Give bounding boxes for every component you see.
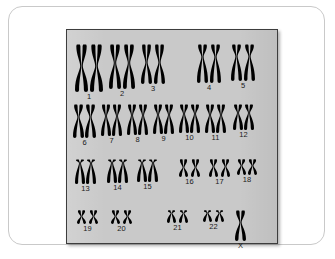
chromosome-21-1: [167, 210, 176, 223]
chromosome-group-9[interactable]: 9: [153, 104, 174, 144]
chromosome-2-1: [109, 44, 121, 89]
chromosome-13-1: [75, 159, 85, 184]
chromosome-label-15: 15: [137, 182, 158, 192]
chromosome-10-2: [190, 104, 200, 133]
chromosome-group-10[interactable]: 10: [179, 104, 200, 143]
chromosome-label-19: 19: [77, 224, 98, 234]
chromosome-group-12[interactable]: 12: [233, 104, 254, 140]
chromosome-17-1: [209, 159, 218, 177]
chromosome-7-2: [112, 104, 122, 136]
chromosome-label-12: 12: [233, 130, 254, 140]
chromosome-label-3: 3: [141, 84, 165, 94]
chromosome-pair: [73, 104, 96, 138]
chromosome-pair: [205, 104, 226, 133]
chromosome-group-5[interactable]: 5: [231, 44, 255, 91]
chromosome-15-2: [148, 159, 158, 182]
chromosome-group-18[interactable]: 18: [237, 159, 257, 185]
chromosome-pair: [107, 159, 128, 183]
chromosome-11-1: [205, 104, 215, 133]
chromosome-label-9: 9: [153, 134, 174, 144]
chromosome-pair: [237, 159, 257, 175]
chromosome-pair: [75, 159, 96, 184]
chromosome-12-1: [233, 104, 243, 130]
chromosome-group-x[interactable]: X: [235, 210, 246, 251]
chromosome-label-4: 4: [197, 83, 221, 93]
chromosome-4-1: [197, 44, 208, 83]
chromosome-19-2: [89, 210, 98, 224]
chromosome-pair: [153, 104, 174, 134]
chromosome-label-11: 11: [205, 133, 226, 143]
chromosome-label-8: 8: [127, 135, 148, 145]
chromosome-21-2: [179, 210, 188, 223]
chromosome-group-3[interactable]: 3: [141, 44, 165, 94]
chromosome-group-17[interactable]: 17: [209, 159, 230, 187]
chromosome-14-2: [118, 159, 128, 183]
chromosome-label-22: 22: [203, 222, 224, 232]
chromosome-18-1: [237, 159, 246, 175]
chromosome-group-6[interactable]: 6: [73, 104, 96, 148]
chromosome-10-1: [179, 104, 189, 133]
chromosome-pair: [167, 210, 188, 223]
chromosome-19-1: [77, 210, 86, 224]
chromosome-7-1: [101, 104, 111, 136]
chromosome-1-2: [90, 44, 103, 92]
chromosome-20-1: [111, 210, 120, 224]
chromosome-8-2: [138, 104, 148, 135]
chromosome-pair: [127, 104, 148, 135]
chromosome-pair: [235, 210, 246, 241]
chromosome-9-1: [153, 104, 163, 134]
chromosome-label-5: 5: [231, 81, 255, 91]
chromosome-label-16: 16: [179, 177, 200, 187]
chromosome-22-1: [203, 210, 212, 222]
chromosome-pair: [197, 44, 221, 83]
chromosome-label-21: 21: [167, 223, 188, 233]
chromosome-18-2: [248, 159, 257, 175]
chromosome-group-19[interactable]: 19: [77, 210, 98, 234]
chromosome-label-18: 18: [237, 175, 257, 185]
chromosome-label-7: 7: [101, 136, 122, 146]
chromosome-pair: [233, 104, 254, 130]
chromosome-pair: [137, 159, 158, 182]
chromosome-group-15[interactable]: 15: [137, 159, 158, 192]
chromosome-pair: [179, 104, 200, 133]
chromosome-1-1: [75, 44, 88, 92]
chromosome-group-7[interactable]: 7: [101, 104, 122, 146]
chromosome-group-20[interactable]: 20: [111, 210, 132, 234]
chromosome-group-13[interactable]: 13: [75, 159, 96, 194]
chromosome-4-2: [210, 44, 221, 83]
chromosome-11-2: [216, 104, 226, 133]
figure-card: 12345678910111213141516171819202122X: [8, 6, 325, 245]
chromosome-label-2: 2: [109, 89, 135, 99]
chromosome-label-10: 10: [179, 133, 200, 143]
chromosome-group-21[interactable]: 21: [167, 210, 188, 233]
chromosome-group-8[interactable]: 8: [127, 104, 148, 145]
chromosome-pair: [209, 159, 230, 177]
chromosome-pair: [75, 44, 103, 92]
chromosome-15-1: [137, 159, 147, 182]
chromosome-label-17: 17: [209, 177, 230, 187]
chromosome-group-22[interactable]: 22: [203, 210, 224, 232]
chromosome-group-1[interactable]: 1: [75, 44, 103, 102]
chromosome-group-4[interactable]: 4: [197, 44, 221, 93]
chromosome-3-1: [141, 44, 152, 84]
chromosome-pair: [203, 210, 224, 222]
chromosome-8-1: [127, 104, 137, 135]
chromosome-20-2: [123, 210, 132, 224]
chromosome-3-2: [154, 44, 165, 84]
chromosome-label-1: 1: [75, 92, 103, 102]
chromosome-2-2: [123, 44, 135, 89]
chromosome-5-1: [231, 44, 242, 81]
chromosome-label-14: 14: [107, 183, 128, 193]
karyotype-panel: 12345678910111213141516171819202122X: [66, 29, 278, 244]
chromosome-group-16[interactable]: 16: [179, 159, 200, 187]
chromosome-group-14[interactable]: 14: [107, 159, 128, 193]
chromosome-6-1: [73, 104, 84, 138]
chromosome-group-11[interactable]: 11: [205, 104, 226, 143]
chromosome-16-1: [179, 159, 188, 177]
chromosome-group-2[interactable]: 2: [109, 44, 135, 99]
chromosome-label-20: 20: [111, 224, 132, 234]
chromosome-label-x: X: [235, 241, 246, 251]
chromosome-16-2: [191, 159, 200, 177]
chromosome-5-2: [244, 44, 255, 81]
chromosome-pair: [231, 44, 255, 81]
